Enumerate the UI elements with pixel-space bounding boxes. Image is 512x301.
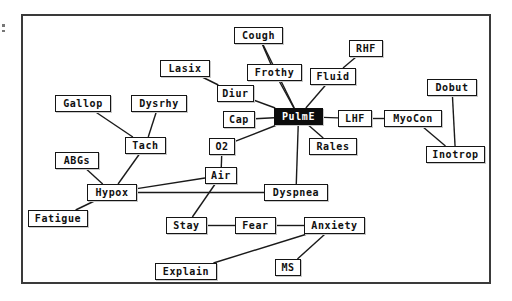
edge-frothy-pulme (279, 81, 294, 108)
edge-pulme-lhf (323, 117, 338, 118)
concept-node-pulme[interactable]: PulmE (274, 108, 323, 125)
edge-diur-pulme (254, 100, 275, 108)
concept-node-lasix[interactable]: Lasix (160, 60, 210, 77)
concept-node-fatigue[interactable]: Fatigue (28, 210, 88, 227)
concept-node-stay[interactable]: Stay (166, 217, 207, 234)
concept-node-rales[interactable]: Rales (309, 138, 357, 155)
edge-cap-pulme (255, 118, 274, 119)
concept-node-inotrop[interactable]: Inotrop (426, 146, 485, 163)
edge-anxiety-ms (297, 234, 325, 259)
concept-node-diur[interactable]: Diur (217, 85, 254, 102)
edge-pulme-rales (308, 125, 323, 138)
concept-node-myocon[interactable]: MyoCon (384, 110, 442, 127)
concept-node-gallop[interactable]: Gallop (55, 95, 111, 112)
concept-node-fluid[interactable]: Fluid (310, 68, 356, 85)
concept-node-cough[interactable]: Cough (234, 27, 283, 44)
edge-myocon-inotrop (423, 127, 445, 146)
concept-node-tach[interactable]: Tach (125, 137, 166, 154)
concept-node-fear[interactable]: Fear (235, 217, 276, 234)
concept-node-lhf[interactable]: LHF (338, 110, 372, 127)
edge-dysrhy-tach (148, 112, 156, 137)
concept-node-hypox[interactable]: Hypox (87, 184, 137, 201)
concept-node-o2[interactable]: O2 (209, 138, 235, 155)
concept-node-cap[interactable]: Cap (223, 111, 255, 128)
edge-pulme-dyspnea (296, 125, 298, 184)
edge-hypox-fatigue (76, 201, 95, 210)
edge-gallop-tach (96, 112, 133, 137)
edge-tach-hypox (118, 154, 139, 184)
edge-lasix-diur (202, 77, 218, 85)
concept-node-dysrhy[interactable]: Dysrhy (131, 95, 187, 112)
edge-air-stay (192, 184, 215, 217)
edge-rhf-fluid (343, 57, 356, 68)
edge-air-hypox (137, 178, 205, 189)
edge-fluid-pulme (306, 85, 326, 108)
concept-node-dobut[interactable]: Dobut (427, 79, 477, 96)
concept-map-canvas: CoughRHFLasixFrothyFluidDobutDiurGallopD… (0, 0, 512, 301)
concept-node-rhf[interactable]: RHF (349, 40, 383, 57)
concept-node-abgs[interactable]: ABGs (55, 152, 99, 169)
concept-node-ms[interactable]: MS (275, 259, 301, 276)
concept-node-frothy[interactable]: Frothy (247, 64, 302, 81)
edge-abgs-hypox (86, 169, 102, 184)
concept-node-anxiety[interactable]: Anxiety (304, 217, 365, 234)
concept-node-explain[interactable]: Explain (155, 263, 217, 280)
edge-dobut-inotrop (452, 96, 455, 146)
concept-node-dyspnea[interactable]: Dyspnea (264, 184, 328, 201)
concept-node-air[interactable]: Air (205, 167, 237, 184)
